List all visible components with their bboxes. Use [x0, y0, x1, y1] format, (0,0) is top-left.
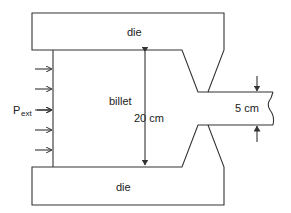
top-die — [32, 13, 224, 92]
billet-diameter-label: 20 cm — [134, 112, 164, 124]
billet-label: billet — [109, 95, 132, 107]
bottom-die — [32, 125, 224, 205]
pressure-label-main: P — [13, 104, 20, 116]
pressure-label-sub: ext — [21, 109, 32, 118]
exit-diameter-label: 5 cm — [235, 102, 259, 114]
bottom-die-label: die — [116, 181, 131, 193]
extrusion-diagram: die die billet 20 cm 5 cm P ext — [0, 0, 291, 213]
rod-break-line — [268, 92, 273, 125]
top-die-label: die — [127, 26, 142, 38]
